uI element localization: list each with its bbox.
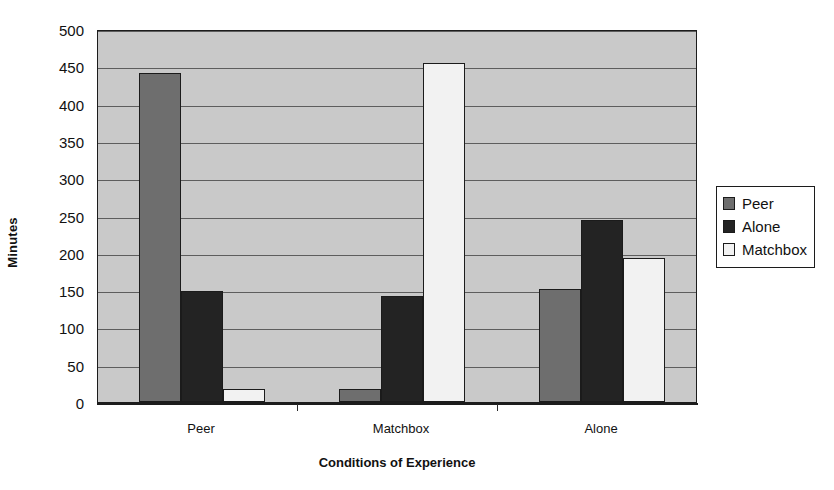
- x-axis-line: [97, 403, 698, 405]
- bar: [381, 296, 423, 402]
- bar: [181, 291, 223, 402]
- y-axis-tick-label: 400: [59, 97, 84, 112]
- legend-swatch: [723, 243, 735, 256]
- x-axis-tick-label: Alone: [584, 421, 617, 436]
- bar: [339, 389, 381, 402]
- x-axis-tick-label: Peer: [187, 421, 214, 436]
- y-axis-title-label: Minutes: [5, 217, 20, 268]
- y-axis-tick-label: 200: [59, 246, 84, 261]
- y-axis-tick-label: 0: [76, 396, 84, 411]
- legend-label: Peer: [742, 196, 774, 211]
- x-axis-tick-label: Matchbox: [373, 421, 429, 436]
- bar: [223, 389, 265, 402]
- y-axis-tick-label: 300: [59, 172, 84, 187]
- bar: [139, 73, 181, 402]
- bar: [581, 220, 623, 402]
- y-axis-tick-label: 350: [59, 134, 84, 149]
- legend-label: Alone: [742, 219, 780, 234]
- chart-figure: Minutes 050100150200250300350400450500 P…: [0, 0, 834, 490]
- y-axis-tick-label: 250: [59, 209, 84, 224]
- bar: [623, 258, 665, 402]
- x-axis-tick-mark: [297, 404, 298, 411]
- legend-item: Peer: [723, 192, 807, 215]
- legend-label: Matchbox: [742, 242, 807, 257]
- bar: [423, 63, 465, 402]
- bar-group: [539, 31, 665, 402]
- y-axis-tick-labels: 050100150200250300350400450500: [28, 0, 90, 440]
- legend-item: Matchbox: [723, 238, 807, 261]
- y-axis-tick-label: 500: [59, 23, 84, 38]
- bar-groups: [98, 31, 696, 402]
- plot-area: [97, 30, 697, 403]
- x-axis-title: Conditions of Experience: [0, 455, 794, 470]
- y-axis-tick-label: 50: [67, 358, 84, 373]
- x-axis-tick-mark: [497, 404, 498, 411]
- bar-group: [139, 31, 265, 402]
- y-axis-tick-label: 150: [59, 284, 84, 299]
- legend-swatch: [723, 197, 735, 210]
- bar: [539, 289, 581, 402]
- legend-swatch: [723, 220, 735, 233]
- legend: PeerAloneMatchbox: [716, 186, 815, 268]
- y-axis-tick-label: 450: [59, 60, 84, 75]
- bar-group: [339, 31, 465, 402]
- y-axis-title: Minutes: [2, 182, 22, 302]
- legend-item: Alone: [723, 215, 807, 238]
- y-axis-tick-label: 100: [59, 321, 84, 336]
